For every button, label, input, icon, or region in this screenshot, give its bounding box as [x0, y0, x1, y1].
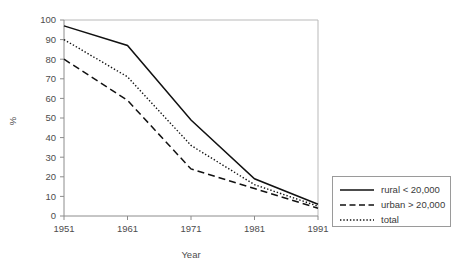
data-series-group [64, 26, 318, 208]
x-axis-tick-labels: 19511961197119811991 [53, 223, 328, 234]
y-tick-label: 80 [45, 54, 56, 65]
y-axis-title: % [7, 116, 18, 125]
x-tick-label: 1971 [180, 223, 201, 234]
series-line-solid [64, 26, 318, 204]
y-axis-ticks [60, 20, 64, 216]
y-tick-label: 90 [45, 34, 56, 45]
y-tick-label: 40 [45, 132, 56, 143]
legend-label: rural < 20,000 [381, 184, 440, 195]
y-tick-label: 30 [45, 152, 56, 163]
y-tick-label: 20 [45, 171, 56, 182]
series-line-dashed [64, 59, 318, 208]
plot-frame [64, 20, 318, 216]
x-axis: 19511961197119811991 Year [53, 216, 328, 260]
x-tick-label: 1961 [117, 223, 138, 234]
x-tick-label: 1981 [244, 223, 265, 234]
y-axis: 0102030405060708090100 % [7, 14, 64, 221]
y-axis-tick-labels: 0102030405060708090100 [40, 14, 56, 221]
y-tick-label: 10 [45, 191, 56, 202]
chart-figure: 0102030405060708090100 % 195119611971198… [0, 0, 456, 271]
x-tick-label: 1951 [53, 223, 74, 234]
x-axis-ticks [64, 216, 318, 220]
legend-label: urban > 20,000 [381, 199, 445, 210]
y-tick-label: 50 [45, 112, 56, 123]
y-tick-label: 70 [45, 73, 56, 84]
x-axis-title: Year [181, 249, 200, 260]
series-line-dotted [64, 40, 318, 207]
legend-label: total [381, 214, 399, 225]
y-tick-label: 60 [45, 93, 56, 104]
x-tick-label: 1991 [307, 223, 328, 234]
y-tick-label: 100 [40, 14, 56, 25]
chart-legend: rural < 20,000urban > 20,000total [333, 177, 451, 227]
y-tick-label: 0 [51, 210, 56, 221]
line-chart: 0102030405060708090100 % 195119611971198… [0, 0, 456, 271]
